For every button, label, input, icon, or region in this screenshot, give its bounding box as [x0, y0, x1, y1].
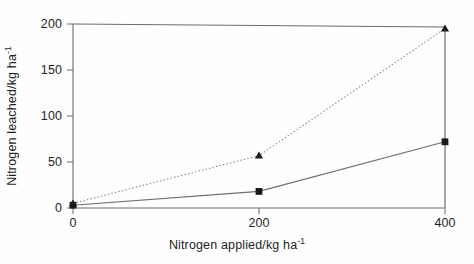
y-tick-label-150: 150 [30, 63, 62, 77]
y-tick-label-0: 0 [30, 201, 62, 215]
y-axis-title-text: Nitrogen leached/kg ha [5, 54, 19, 186]
x-axis-ticks [73, 208, 445, 214]
y-tick-label-100: 100 [30, 109, 62, 123]
y-tick-label-200: 200 [30, 17, 62, 31]
axes-frame [73, 24, 445, 208]
x-tick-label-400: 400 [434, 216, 455, 230]
x-tick-label-200: 200 [248, 216, 269, 230]
marker-triangle-400 [441, 25, 449, 32]
marker-square-0 [70, 202, 77, 209]
x-axis-title-exponent: -1 [297, 236, 305, 246]
series-dotted-line [73, 29, 445, 204]
marker-square-200 [256, 188, 263, 195]
series-solid-line [73, 142, 445, 205]
x-tick-label-0: 0 [69, 216, 76, 230]
marker-triangle-200 [255, 152, 263, 159]
y-tick-label-50: 50 [30, 155, 62, 169]
y-axis-title-wrapper: Nitrogen leached/kg ha-1 [2, 0, 22, 232]
series-dotted-triangle [69, 25, 449, 207]
axis-top [73, 24, 445, 27]
y-axis-title: Nitrogen leached/kg ha-1 [5, 46, 19, 186]
marker-square-400 [442, 138, 449, 145]
y-axis-title-exponent: -1 [3, 46, 13, 54]
figure-container: 200 150 100 50 0 0 200 400 Nitrogen appl… [0, 0, 474, 264]
x-axis-title-text: Nitrogen applied/kg ha [169, 238, 297, 252]
y-axis-ticks [67, 24, 73, 208]
x-axis-title: Nitrogen applied/kg ha-1 [0, 238, 474, 252]
series-solid-square [70, 138, 449, 208]
